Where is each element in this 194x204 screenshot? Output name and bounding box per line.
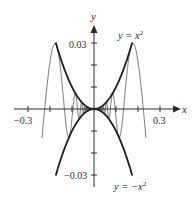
y-axis-label: y	[90, 10, 96, 22]
y-tick-label-neg: −0.03	[64, 170, 87, 181]
y-tick-label-pos: 0.03	[69, 39, 87, 50]
upper-curve-exponent: 2	[140, 29, 144, 37]
upper-curve-label-text: y = x	[117, 30, 140, 41]
upper-curve-label: y = x2	[117, 29, 144, 41]
lower-curve-exponent: 2	[143, 180, 147, 188]
y-axis-arrow-icon	[91, 25, 98, 33]
lower-curve-label-text: y = −x	[113, 181, 143, 192]
plot-area: x y −0.3 0.3 0.03 −0.03 y = x2 y = −x2	[0, 0, 194, 204]
x-tick-label-neg: −0.3	[14, 115, 32, 126]
x-tick-label-pos: 0.3	[153, 115, 166, 126]
lower-curve-label: y = −x2	[113, 180, 147, 192]
x-axis-label: x	[181, 103, 187, 115]
x-axis-arrow-icon	[173, 106, 181, 113]
